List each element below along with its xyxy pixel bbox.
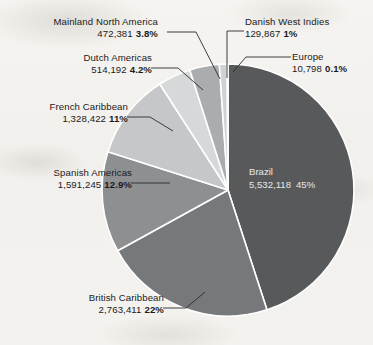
slice-label-brazil: Brazil 5,532,11845% xyxy=(249,166,315,190)
leader-line-europe xyxy=(233,57,291,72)
slice-label-dutch-americas: Dutch Americas 514,1924.2% xyxy=(83,52,152,75)
slice-percent: 0.1% xyxy=(325,63,347,74)
slice-percent: 22% xyxy=(144,304,164,315)
slice-label-values: 5,532,11845% xyxy=(249,179,315,191)
slice-percent: 45% xyxy=(296,179,315,190)
slice-label-name: Danish West Indies xyxy=(245,16,329,27)
slice-label-name: French Caribbean xyxy=(50,101,128,112)
slice-label-british-caribbean: British Caribbean 2,763,41122% xyxy=(89,292,164,315)
slice-label-name: Spanish Americas xyxy=(54,167,132,178)
slice-percent: 12.9% xyxy=(104,179,132,190)
slice-label-values: 1,328,42211% xyxy=(50,113,128,124)
slice-label-name: Dutch Americas xyxy=(83,52,152,63)
leader-line-french-caribbean xyxy=(127,117,173,131)
slice-value: 514,192 xyxy=(91,64,126,75)
slice-label-values: 129,8671% xyxy=(245,28,329,39)
slice-label-name: British Caribbean xyxy=(89,292,164,303)
pie-chart-figure: Mainland North America 472,3813.8% Dutch… xyxy=(0,0,373,345)
slice-label-values: 514,1924.2% xyxy=(83,64,152,75)
slice-value: 1,328,422 xyxy=(62,113,106,124)
leader-line-british-caribbean xyxy=(163,292,205,308)
slice-label-name: Brazil xyxy=(249,166,315,178)
slice-label-values: 472,3813.8% xyxy=(53,28,158,39)
slice-value: 1,591,245 xyxy=(58,179,102,190)
slice-value: 5,532,118 xyxy=(249,179,291,190)
leader-line-mainland-north-america xyxy=(167,32,220,79)
slice-percent: 3.8% xyxy=(136,28,158,39)
slice-label-values: 2,763,41122% xyxy=(89,304,164,315)
slice-label-name: Europe xyxy=(292,51,347,62)
slice-label-europe: Europe 10,7980.1% xyxy=(292,51,347,74)
slice-label-values: 1,591,24512.9% xyxy=(54,179,132,190)
slice-percent: 1% xyxy=(283,28,297,39)
slice-label-mainland-north-america: Mainland North America 472,3813.8% xyxy=(53,16,158,39)
leader-line-dutch-americas xyxy=(151,68,203,90)
slice-value: 129,867 xyxy=(245,28,280,39)
slice-label-french-caribbean: French Caribbean 1,328,42211% xyxy=(50,101,128,124)
slice-value: 2,763,411 xyxy=(99,304,142,315)
slice-percent: 11% xyxy=(109,113,128,124)
slice-label-spanish-americas: Spanish Americas 1,591,24512.9% xyxy=(54,167,132,190)
slice-value: 472,381 xyxy=(97,28,132,39)
slice-label-danish-west-indies: Danish West Indies 129,8671% xyxy=(245,16,329,39)
slice-label-name: Mainland North America xyxy=(53,16,158,27)
slice-value: 10,798 xyxy=(292,63,322,74)
slice-label-values: 10,7980.1% xyxy=(292,63,347,74)
slice-percent: 4.2% xyxy=(130,64,152,75)
leader-line-danish-west-indies xyxy=(227,31,244,78)
